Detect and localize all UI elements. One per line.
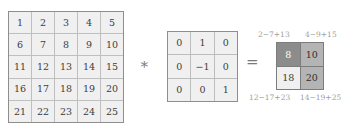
result-cell: 18 — [277, 67, 300, 90]
input-cell: 20 — [101, 79, 123, 100]
kernel-cell: 0 — [168, 32, 190, 54]
result-cell: 8 — [277, 43, 300, 66]
annotation-bottom-left: 12−17+23 — [249, 94, 290, 102]
annotation-top-right: 4−9+15 — [305, 31, 337, 39]
input-cell: 18 — [55, 79, 77, 100]
result-cell: 10 — [301, 43, 324, 66]
input-cell: 22 — [32, 101, 54, 122]
kernel-cell: 0 — [191, 79, 213, 101]
input-cell: 8 — [55, 34, 77, 55]
input-matrix: 1 2 3 4 5 6 7 8 9 10 11 12 13 14 15 16 1… — [8, 11, 124, 123]
input-cell: 10 — [101, 34, 123, 55]
input-cell: 15 — [101, 56, 123, 77]
input-cell: 1 — [9, 12, 31, 33]
input-cell: 13 — [55, 56, 77, 77]
kernel-cell: 0 — [215, 32, 237, 54]
result-cell: 20 — [301, 67, 324, 90]
kernel-cell: 0 — [168, 79, 190, 101]
result-matrix: 8 10 18 20 — [276, 42, 324, 90]
kernel-cell: 0 — [215, 55, 237, 77]
kernel-cell: 0 — [168, 55, 190, 77]
input-cell: 2 — [32, 12, 54, 33]
convolution-operator-icon: ∗ — [139, 57, 149, 72]
input-cell: 3 — [55, 12, 77, 33]
kernel-matrix: 0 1 0 0 −1 0 0 0 1 — [167, 31, 238, 102]
input-cell: 11 — [9, 56, 31, 77]
equals-operator-icon: = — [246, 55, 259, 70]
input-cell: 24 — [78, 101, 100, 122]
input-cell: 25 — [101, 101, 123, 122]
input-cell: 6 — [9, 34, 31, 55]
input-cell: 5 — [101, 12, 123, 33]
input-cell: 7 — [32, 34, 54, 55]
input-cell: 17 — [32, 79, 54, 100]
convolution-diagram: 1 2 3 4 5 6 7 8 9 10 11 12 13 14 15 16 1… — [0, 0, 359, 132]
input-cell: 4 — [78, 12, 100, 33]
input-cell: 16 — [9, 79, 31, 100]
input-cell: 14 — [78, 56, 100, 77]
annotation-bottom-right: 14−19+25 — [300, 94, 341, 102]
kernel-cell: −1 — [191, 55, 213, 77]
kernel-cell: 1 — [215, 79, 237, 101]
input-cell: 21 — [9, 101, 31, 122]
kernel-cell: 1 — [191, 32, 213, 54]
input-cell: 23 — [55, 101, 77, 122]
input-cell: 19 — [78, 79, 100, 100]
input-cell: 12 — [32, 56, 54, 77]
annotation-top-left: 2−7+13 — [258, 31, 290, 39]
input-cell: 9 — [78, 34, 100, 55]
